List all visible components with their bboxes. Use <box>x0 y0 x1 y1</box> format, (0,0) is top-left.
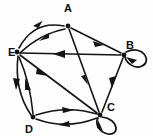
vertex-label-b: B <box>126 39 134 51</box>
edge-a-to-c <box>69 29 99 112</box>
vertex-dot-b <box>122 53 127 58</box>
edge-c-to-d <box>36 118 97 127</box>
edge-e-to-a <box>19 21 64 48</box>
edge-b-to-e <box>20 50 121 58</box>
edge-d-to-c <box>36 107 97 115</box>
arrowhead-c-loop <box>97 120 103 131</box>
vertex-dot-d <box>31 115 36 120</box>
self-loop-b <box>125 50 146 67</box>
arrowhead-d-to-e <box>25 78 31 90</box>
vertex-dot-a <box>66 24 71 29</box>
vertex-label-a: A <box>64 2 72 14</box>
vertex-label-c: C <box>107 101 115 113</box>
edge-a-to-e <box>20 29 65 53</box>
edge-a-to-b <box>71 28 121 53</box>
self-loop-c <box>97 117 116 134</box>
vertex-label-e: E <box>8 46 15 58</box>
vertex-label-d: D <box>25 123 33 135</box>
arrowhead-b-to-c <box>109 76 116 88</box>
vertex-dot-c <box>98 113 103 118</box>
directed-graph-figure: A B C D E <box>0 0 153 136</box>
graph-canvas: A B C D E <box>0 0 153 136</box>
arrowhead-d-to-c <box>62 107 74 113</box>
arrowhead-b-to-e <box>53 50 65 58</box>
arrowhead-e-to-c <box>36 68 48 76</box>
